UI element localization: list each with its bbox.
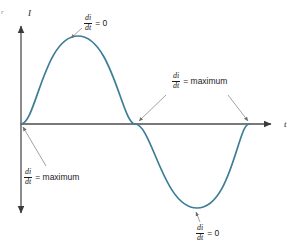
fraction-denominator: dt — [172, 82, 180, 91]
y-axis-label: I — [27, 8, 32, 18]
fraction-di-dt: di dt — [196, 224, 204, 243]
fraction-di-dt: di dt — [24, 168, 32, 187]
annotation-trough-derivative-zero: di dt = 0 — [196, 224, 219, 243]
annotation-crossings-derivative-maximum: di dt = maximum — [172, 72, 227, 91]
x-axis-label: t — [284, 119, 287, 129]
annotation-equals-text: = maximum — [35, 173, 79, 182]
fraction-denominator: dt — [196, 234, 204, 243]
fraction-denominator: dt — [84, 24, 92, 33]
annotation-equals-text: = 0 — [95, 19, 107, 28]
leader-line-end-crossing — [228, 95, 248, 121]
annotation-origin-derivative-maximum: di dt = maximum — [24, 168, 79, 187]
figure-canvas: I t — [0, 0, 300, 248]
fraction-di-dt: di dt — [84, 14, 92, 33]
leader-line-trough — [196, 212, 200, 222]
leader-line-origin — [23, 127, 46, 166]
annotation-equals-text: = maximum — [183, 77, 227, 86]
fraction-denominator: dt — [24, 178, 32, 187]
annotation-peak-derivative-zero: di dt = 0 — [84, 14, 107, 33]
fraction-di-dt: di dt — [172, 72, 180, 91]
sine-derivative-figure: r I t — [0, 0, 300, 248]
leader-line-mid-crossing — [139, 95, 166, 121]
annotation-equals-text: = 0 — [207, 229, 219, 238]
